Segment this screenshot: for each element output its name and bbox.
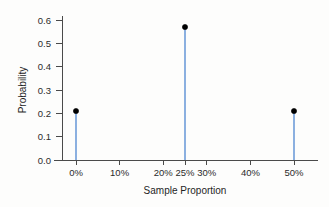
y-axis-title: Probability bbox=[17, 67, 28, 114]
x-tick-label: 40% bbox=[241, 167, 261, 178]
y-tick-label: 0.6 bbox=[38, 15, 51, 26]
data-point-marker[interactable] bbox=[73, 108, 78, 113]
y-tick-label: 0.3 bbox=[38, 85, 51, 96]
x-tick-label: 20% bbox=[154, 167, 174, 178]
y-tick-label: 0.2 bbox=[38, 108, 51, 119]
x-axis-title: Sample Proportion bbox=[144, 185, 227, 196]
y-tick-label: 0.5 bbox=[38, 38, 51, 49]
y-tick-label: 0.1 bbox=[38, 131, 51, 142]
x-tick-label: 30% bbox=[197, 167, 217, 178]
y-tick-label: 0.0 bbox=[38, 155, 51, 166]
stem-plot-svg: 0.00.10.20.30.40.50.60%10%20%25%30%40%50… bbox=[0, 0, 329, 207]
chart-figure: 0.00.10.20.30.40.50.60%10%20%25%30%40%50… bbox=[0, 0, 329, 207]
data-point-marker[interactable] bbox=[182, 24, 187, 29]
x-tick-label: 50% bbox=[284, 167, 304, 178]
x-tick-label: 0% bbox=[69, 167, 83, 178]
x-tick-label: 10% bbox=[110, 167, 130, 178]
y-tick-label: 0.4 bbox=[38, 61, 51, 72]
data-point-marker[interactable] bbox=[291, 108, 296, 113]
x-tick-label: 25% bbox=[175, 167, 195, 178]
